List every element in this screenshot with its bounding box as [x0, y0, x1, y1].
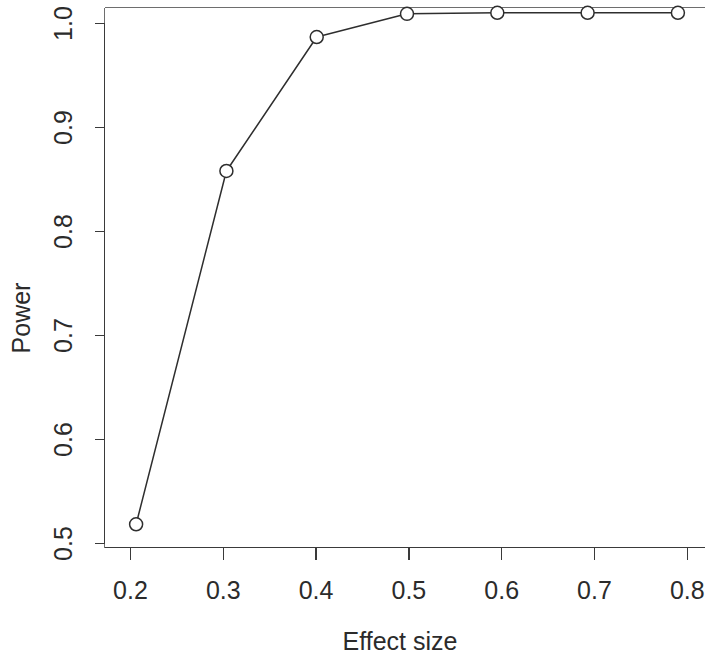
plot-canvas: 1.0 0.9 0.8 0.7 0.6 0.5 Power 0.2 0.3 0.… — [0, 0, 705, 661]
power-curve-figure: 1.0 0.9 0.8 0.7 0.6 0.5 Power 0.2 0.3 0.… — [0, 0, 705, 661]
data-point-0.2 — [130, 518, 143, 531]
y-tick-label-0.7: 0.7 — [49, 318, 77, 353]
data-point-0.3 — [220, 164, 233, 177]
data-point-0.6 — [491, 6, 504, 19]
y-tick-labels: 1.0 0.9 0.8 0.7 0.6 0.5 — [49, 6, 77, 561]
data-point-0.4 — [310, 31, 323, 44]
y-tick-label-0.9: 0.9 — [49, 110, 77, 145]
x-tick-label-0.7: 0.7 — [577, 576, 612, 604]
data-series-power — [130, 6, 685, 531]
x-tick-label-0.5: 0.5 — [392, 576, 427, 604]
x-tick-label-0.4: 0.4 — [299, 576, 334, 604]
y-tick-label-1.0: 1.0 — [49, 6, 77, 41]
x-axis-title: Effect size — [343, 627, 458, 655]
y-tick-label-0.8: 0.8 — [49, 214, 77, 249]
y-tick-label-0.5: 0.5 — [49, 526, 77, 561]
data-point-0.5 — [401, 7, 414, 20]
x-axis — [105, 548, 705, 561]
y-axis — [95, 24, 105, 544]
y-tick-label-0.6: 0.6 — [49, 422, 77, 457]
x-tick-label-0.3: 0.3 — [206, 576, 241, 604]
data-point-0.8 — [671, 6, 684, 19]
plot-box — [105, 8, 705, 548]
x-tick-label-0.8: 0.8 — [670, 576, 705, 604]
x-tick-labels: 0.2 0.3 0.4 0.5 0.6 0.7 0.8 — [113, 576, 705, 604]
x-tick-label-0.6: 0.6 — [484, 576, 519, 604]
y-axis-title: Power — [7, 283, 35, 354]
data-point-0.7 — [581, 6, 594, 19]
series-markers-power — [130, 6, 685, 531]
series-line-power — [136, 13, 678, 525]
x-tick-label-0.2: 0.2 — [113, 576, 148, 604]
